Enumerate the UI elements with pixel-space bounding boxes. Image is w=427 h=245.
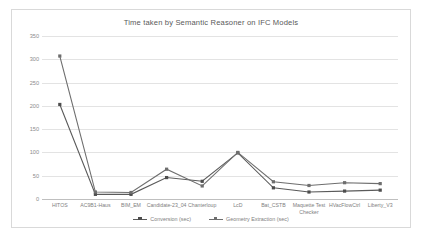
plot-area: 050100150200250300350 [42,36,398,199]
x-axis-line [42,199,398,200]
legend-item[interactable]: Geometry Extraction (sec) [209,216,289,222]
data-point-marker [236,151,239,154]
y-axis-tick-label: 250 [30,80,39,86]
data-point-marker [201,180,204,183]
x-axis-tick-label: Liberty_V3 [354,202,406,209]
legend-item[interactable]: Conversion (sec) [133,216,191,222]
data-point-marker [165,176,168,179]
legend-label: Conversion (sec) [150,216,191,222]
y-axis-tick-label: 100 [30,149,39,155]
series-line [60,104,380,194]
chart-title: Time taken by Semantic Reasoner on IFC M… [12,18,410,27]
y-axis-tick-label: 150 [30,126,39,132]
data-point-marker [379,182,382,185]
y-axis-tick-label: 300 [30,56,39,62]
data-point-marker [58,103,61,106]
data-point-marker [272,186,275,189]
data-point-marker [165,168,168,171]
chart-legend: Conversion (sec)Geometry Extraction (sec… [12,216,410,222]
legend-marker-icon [209,217,223,222]
data-point-marker [58,54,61,57]
data-point-marker [343,189,346,192]
chart-container: Time taken by Semantic Reasoner on IFC M… [11,9,411,228]
legend-marker-icon [133,217,147,222]
data-point-marker [201,184,204,187]
data-point-marker [94,190,97,193]
data-point-marker [307,190,310,193]
data-point-marker [307,184,310,187]
y-axis-tick-label: 50 [33,173,39,179]
data-point-marker [272,180,275,183]
data-point-marker [129,191,132,194]
series-group [42,36,398,199]
y-axis-tick-label: 200 [30,103,39,109]
y-axis-tick-label: 350 [30,33,39,39]
series-line [60,56,380,192]
data-point-marker [343,181,346,184]
legend-label: Geometry Extraction (sec) [226,216,289,222]
data-point-marker [379,189,382,192]
